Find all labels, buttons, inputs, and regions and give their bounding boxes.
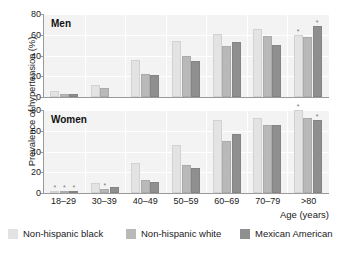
significance-asterisk: * [313, 20, 322, 25]
legend-item-1: Non-hispanic white [126, 228, 221, 239]
bar-women-4049-s1 [141, 180, 150, 193]
significance-asterisk: * [69, 185, 78, 190]
hypertension-prevalence-chart: Prevalence of hypertension (%) Men 02040… [0, 0, 339, 253]
bar-men-5059-s2 [191, 61, 200, 97]
group-separator [125, 110, 126, 193]
bar-men-7079-s0 [253, 29, 262, 97]
bar-men-6069-s2 [232, 42, 241, 97]
gridline [44, 14, 329, 15]
x-axis-label: Age (years) [280, 209, 329, 220]
group-separator [287, 110, 288, 193]
group-separator [247, 110, 248, 193]
significance-asterisk: * [50, 185, 59, 190]
significance-asterisk: * [100, 183, 109, 188]
bar-men-1829-s1 [60, 94, 69, 97]
bar-women-5059-s2 [191, 168, 200, 193]
bar-women-3039-s2 [110, 187, 119, 193]
significance-asterisk: * [294, 29, 303, 34]
group-separator [206, 14, 207, 97]
significance-asterisk: * [294, 104, 303, 109]
group-separator [166, 110, 167, 193]
bar-men-5059-s1 [182, 56, 191, 98]
legend-item-0: Non-hispanic black [8, 228, 103, 239]
panel-women-title: Women [51, 114, 87, 125]
bar-women-80-s0 [294, 110, 303, 193]
x-axis-tick-labels: 18–2930–3940–4950–5960–6970–79>80 [43, 196, 329, 208]
group-separator [206, 110, 207, 193]
gridline [44, 131, 329, 132]
bar-women-1829-s1 [60, 191, 69, 193]
bar-men-4049-s1 [141, 74, 150, 97]
bar-women-4049-s2 [150, 182, 159, 193]
bar-women-6069-s1 [222, 141, 231, 193]
significance-asterisk: * [60, 185, 69, 190]
bar-men-80-s1 [303, 37, 312, 97]
significance-asterisk: * [313, 114, 322, 119]
bar-women-5059-s1 [182, 165, 191, 193]
bar-men-4049-s2 [150, 75, 159, 97]
gridline [44, 110, 329, 111]
group-separator [166, 14, 167, 97]
y-axis-tick-mark [41, 97, 44, 98]
group-separator [287, 14, 288, 97]
bar-women-1829-s0 [50, 191, 59, 193]
chart-legend: Non-hispanic blackNon-hispanic whiteMexi… [8, 228, 339, 244]
legend-swatch-icon [240, 229, 250, 239]
legend-swatch-icon [8, 229, 18, 239]
group-separator [247, 14, 248, 97]
panel-men-plot-area: 020406080** [43, 14, 329, 98]
bar-women-7079-s0 [253, 118, 262, 193]
x-axis-tick-5059: 50–59 [173, 196, 198, 206]
bar-women-6069-s0 [213, 120, 222, 193]
bar-men-7079-s1 [263, 36, 272, 97]
panel-men: Men 020406080** [37, 14, 329, 98]
panel-women: Women 020406080****** [37, 110, 329, 194]
bar-men-1829-s0 [50, 91, 59, 97]
bar-men-1829-s2 [69, 94, 78, 97]
gridline [44, 35, 329, 36]
bar-women-1829-s2 [69, 191, 78, 193]
bar-women-5059-s0 [172, 145, 181, 193]
bar-women-80-s1 [303, 118, 312, 193]
x-axis-tick-6069: 60–69 [214, 196, 239, 206]
bar-women-6069-s2 [232, 134, 241, 193]
bar-men-3039-s1 [100, 88, 109, 97]
group-separator [85, 14, 86, 97]
bar-women-80-s2 [313, 120, 322, 193]
bar-women-4049-s0 [131, 163, 140, 193]
bar-men-3039-s0 [91, 85, 100, 97]
panel-men-title: Men [51, 18, 71, 29]
legend-label: Mexican American [255, 228, 333, 239]
x-axis-tick-80: >80 [301, 196, 316, 206]
bar-men-7079-s2 [272, 45, 281, 97]
legend-swatch-icon [126, 229, 136, 239]
y-axis-label: Prevalence of hypertension (%) [26, 17, 37, 187]
bar-women-3039-s1 [100, 189, 109, 193]
x-axis-tick-7079: 70–79 [255, 196, 280, 206]
y-axis-tick-mark [41, 193, 44, 194]
bar-men-6069-s1 [222, 46, 231, 97]
legend-item-2: Mexican American [240, 228, 333, 239]
bar-men-5059-s0 [172, 41, 181, 97]
bar-men-80-s2 [313, 26, 322, 97]
bar-men-6069-s0 [213, 34, 222, 97]
x-axis-tick-1829: 18–29 [51, 196, 76, 206]
x-axis-tick-4049: 40–49 [133, 196, 158, 206]
gridline [44, 152, 329, 153]
group-separator [125, 14, 126, 97]
legend-label: Non-hispanic white [141, 228, 221, 239]
bar-women-7079-s1 [263, 125, 272, 193]
bar-women-3039-s0 [91, 183, 100, 193]
bar-men-80-s0 [294, 35, 303, 97]
x-axis-tick-3039: 30–39 [92, 196, 117, 206]
bar-men-4049-s0 [131, 60, 140, 97]
legend-label: Non-hispanic black [23, 228, 103, 239]
bar-women-7079-s2 [272, 125, 281, 193]
